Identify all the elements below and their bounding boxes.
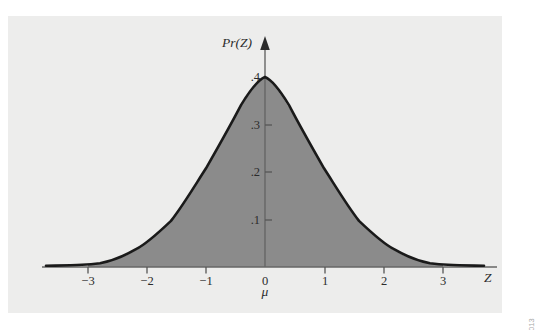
y-tick-label: .4: [234, 71, 260, 84]
x-tick-label: −1: [193, 275, 219, 288]
x-axis-title: Z: [484, 271, 492, 285]
figure-container: Pr(Z) Z μ −3 −2 −1 0 1 2 3 .4 .3 .2 .1 ©…: [0, 0, 540, 330]
copyright-credit: © Cengage Learning 2013: [527, 318, 536, 330]
x-tick-label: 3: [430, 275, 456, 288]
x-tick-label: 2: [371, 275, 397, 288]
y-tick-label: .1: [234, 214, 260, 227]
x-tick-label: −3: [75, 275, 101, 288]
x-tick-label: −2: [134, 275, 160, 288]
y-tick-label: .2: [234, 166, 260, 179]
y-tick-label: .3: [234, 119, 260, 132]
x-tick-label: 1: [312, 275, 338, 288]
y-axis-title: Pr(Z): [222, 36, 252, 50]
x-tick-label: 0: [252, 275, 278, 288]
